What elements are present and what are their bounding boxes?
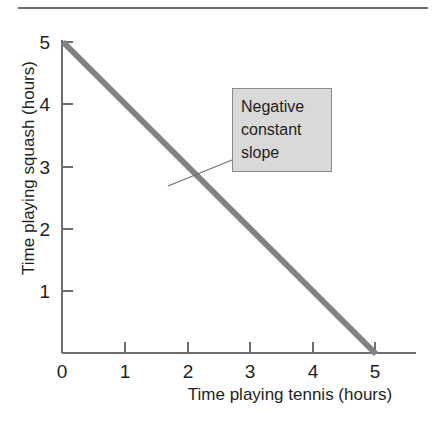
annotation-line-1: Negative <box>241 95 331 118</box>
y-axis-title: Time playing squash (hours) <box>19 43 39 293</box>
annotation-line-2: constant <box>241 118 331 141</box>
x-tick-label-2: 2 <box>176 362 200 381</box>
annotation-line-3: slope <box>241 141 331 164</box>
x-axis-title: Time playing tennis (hours) <box>150 385 430 405</box>
plot-area: 5 4 3 2 1 0 1 2 3 4 5 Time playing tenni… <box>0 0 435 426</box>
x-tick-label-3: 3 <box>238 362 262 381</box>
x-tick-label-0: 0 <box>50 362 74 381</box>
x-tick-label-5: 5 <box>363 362 387 381</box>
negative-constant-slope-callout: Negative constant slope <box>232 88 332 172</box>
x-tick-label-4: 4 <box>301 362 325 381</box>
figure-root: 5 4 3 2 1 0 1 2 3 4 5 Time playing tenni… <box>0 0 435 426</box>
x-tick-label-1: 1 <box>113 362 137 381</box>
